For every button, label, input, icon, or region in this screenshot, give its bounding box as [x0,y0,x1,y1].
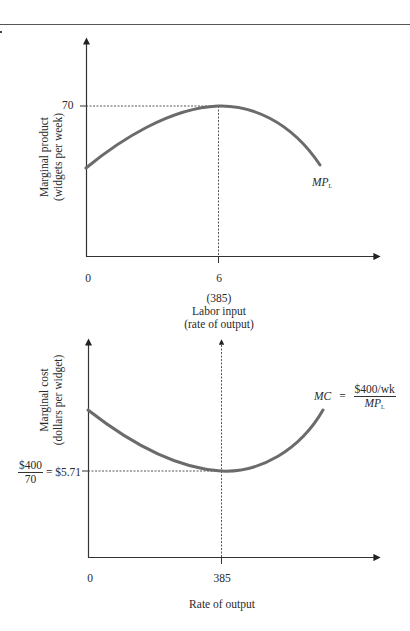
mp-curve [86,106,320,168]
mc-x-tick-label-385: 385 [213,572,230,585]
mp-x-tick-note-385: (385) [207,292,232,305]
mp-x-axis-label-line1: Labor input [192,305,246,318]
mc-formula-den-main: MP [364,397,381,409]
mc-y-tick-label: $400 70 = $5.71 [18,459,81,486]
mc-y-tick-fraction: $400 70 [18,459,43,486]
mc-y-tick-numerator: $400 [18,459,43,473]
mc-y-axis-label: Marginal cost (dollars per widget) [38,335,66,465]
mc-formula-label: MC = $400/wk MPL [314,383,396,411]
mc-y-label-line1: Marginal cost [38,335,52,465]
mc-y-tick-denominator: 70 [18,473,43,486]
mc-formula-fraction: $400/wk MPL [354,383,396,411]
mp-x-axis-label-line2: (rate of output) [184,318,254,331]
mc-formula-numerator: $400/wk [354,383,396,397]
mp-y-tick-label-70: 70 [62,99,74,112]
mc-x-axis-label: Rate of output [189,598,255,611]
mp-curve-label-main: MP [312,176,329,188]
mc-formula-lhs: MC [314,390,331,402]
mp-y-label-line1: Marginal product [38,82,52,232]
mc-y-tick-equals: = $5.71 [46,466,81,478]
mc-chart [82,342,377,564]
mc-curve [88,410,323,471]
mc-formula-equals: = [339,390,346,402]
mp-x-tick-label-0: 0 [85,272,91,285]
mp-chart [80,41,377,263]
mp-x-tick-label-6: 6 [216,272,222,285]
mp-curve-label: MPL [312,176,332,190]
mc-x-tick-label-0: 0 [87,572,93,585]
mc-formula-denominator: MPL [354,397,396,411]
mc-y-label-line2: (dollars per widget) [52,335,66,465]
mp-curve-label-sub: L [329,183,333,189]
mc-formula-den-sub: L [381,404,385,410]
